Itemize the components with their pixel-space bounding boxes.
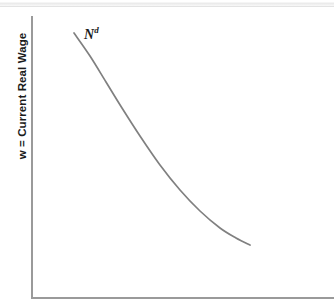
curve-label-base: N [84, 27, 94, 42]
labor-demand-curve [74, 33, 250, 245]
curve-label-nd: Nd [84, 27, 99, 43]
curve-label-superscript: d [94, 25, 99, 35]
figure-canvas: w = Current Real Wage Nd [0, 0, 334, 306]
plot-area [0, 0, 334, 306]
